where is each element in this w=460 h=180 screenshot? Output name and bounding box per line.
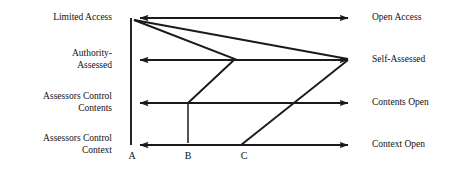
label-self-assessed: Self-Assessed [372,54,460,66]
tick-label-c: C [234,150,254,161]
label-open-access: Open Access [372,12,460,24]
label-limited-access: Limited Access [2,12,112,24]
tick-label-a: A [122,150,142,161]
label-assessors-control-contents: Assessors Control Contents [2,91,112,114]
label-authority-assessed: Authority- Assessed [2,48,112,71]
label-context-open: Context Open [372,139,460,151]
trajectory-shallow [134,20,348,59]
tick-label-b: B [178,150,198,161]
diagram-canvas: Limited Access Authority- Assessed Asses… [0,0,460,180]
label-contents-open: Contents Open [372,97,460,109]
label-assessors-control-context: Assessors Control Context [2,133,112,156]
trajectory-zigzag [134,20,235,103]
